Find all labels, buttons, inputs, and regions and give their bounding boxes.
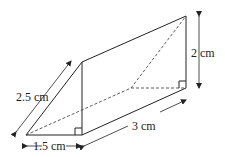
visible-edges bbox=[26, 16, 186, 135]
slant-label: 2.5 cm bbox=[16, 90, 49, 104]
length-label: 3 cm bbox=[132, 119, 156, 133]
base-label: 1.5 cm bbox=[33, 139, 66, 153]
height-label: 2 cm bbox=[191, 46, 215, 60]
hidden-edges bbox=[26, 16, 186, 135]
length-dimension-arrow-left bbox=[84, 126, 128, 146]
prism-diagram: 2.5 cm 2 cm 1.5 cm 3 cm bbox=[0, 0, 225, 157]
length-dimension-arrow-right bbox=[160, 100, 186, 112]
right-angle-marker-back bbox=[179, 81, 186, 88]
hidden-back-slant-edge bbox=[131, 16, 186, 88]
top-ridge-edge bbox=[82, 16, 186, 62]
right-angle-marker-front bbox=[75, 128, 82, 135]
